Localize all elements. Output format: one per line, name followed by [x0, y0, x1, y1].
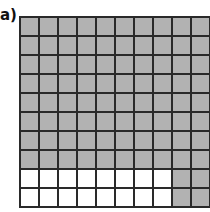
- shaded-cell: [116, 56, 133, 73]
- shaded-cell: [173, 56, 190, 73]
- shaded-cell: [78, 75, 95, 92]
- shaded-cell: [154, 75, 171, 92]
- shaded-cell: [192, 18, 209, 35]
- shaded-cell: [192, 113, 209, 130]
- shaded-cell: [154, 56, 171, 73]
- unshaded-cell: [59, 189, 76, 206]
- shaded-cell: [154, 18, 171, 35]
- unshaded-cell: [21, 189, 38, 206]
- shaded-cell: [192, 37, 209, 54]
- shaded-cell: [40, 37, 57, 54]
- shaded-cell: [78, 94, 95, 111]
- shaded-cell: [173, 132, 190, 149]
- shaded-cell: [21, 18, 38, 35]
- shaded-cell: [97, 151, 114, 168]
- shaded-cell: [97, 56, 114, 73]
- unshaded-cell: [59, 170, 76, 187]
- shaded-cell: [173, 170, 190, 187]
- shaded-cell: [154, 37, 171, 54]
- shaded-cell: [192, 170, 209, 187]
- shaded-cell: [135, 56, 152, 73]
- unshaded-cell: [78, 189, 95, 206]
- shaded-cell: [40, 18, 57, 35]
- shaded-cell: [192, 151, 209, 168]
- shaded-cell: [21, 56, 38, 73]
- shaded-cell: [173, 151, 190, 168]
- shaded-cell: [59, 56, 76, 73]
- unshaded-cell: [97, 189, 114, 206]
- shaded-cell: [173, 94, 190, 111]
- shaded-cell: [116, 75, 133, 92]
- shaded-cell: [135, 94, 152, 111]
- shaded-cell: [173, 75, 190, 92]
- shaded-cell: [40, 151, 57, 168]
- shaded-cell: [135, 132, 152, 149]
- shaded-cell: [21, 94, 38, 111]
- shaded-cell: [59, 18, 76, 35]
- shaded-cell: [116, 37, 133, 54]
- shaded-cell: [78, 37, 95, 54]
- shaded-cell: [59, 132, 76, 149]
- shaded-cell: [78, 18, 95, 35]
- unshaded-cell: [97, 170, 114, 187]
- shaded-cell: [173, 113, 190, 130]
- shaded-cell: [192, 189, 209, 206]
- shaded-cell: [192, 94, 209, 111]
- shaded-cell: [173, 18, 190, 35]
- shaded-cell: [116, 113, 133, 130]
- unshaded-cell: [78, 170, 95, 187]
- unshaded-cell: [154, 189, 171, 206]
- shaded-cell: [192, 75, 209, 92]
- shaded-cell: [135, 151, 152, 168]
- unshaded-cell: [40, 189, 57, 206]
- shaded-cell: [154, 94, 171, 111]
- hundred-grid: [19, 16, 210, 208]
- shaded-cell: [21, 75, 38, 92]
- shaded-cell: [78, 113, 95, 130]
- shaded-cell: [116, 94, 133, 111]
- shaded-cell: [173, 37, 190, 54]
- shaded-cell: [59, 37, 76, 54]
- shaded-cell: [154, 113, 171, 130]
- shaded-cell: [135, 113, 152, 130]
- shaded-cell: [97, 113, 114, 130]
- unshaded-cell: [116, 189, 133, 206]
- shaded-cell: [154, 132, 171, 149]
- shaded-cell: [21, 132, 38, 149]
- shaded-cell: [21, 151, 38, 168]
- unshaded-cell: [135, 170, 152, 187]
- shaded-cell: [40, 56, 57, 73]
- shaded-cell: [116, 151, 133, 168]
- shaded-cell: [135, 18, 152, 35]
- shaded-cell: [59, 113, 76, 130]
- shaded-cell: [97, 75, 114, 92]
- shaded-cell: [40, 113, 57, 130]
- shaded-cell: [59, 94, 76, 111]
- shaded-cell: [59, 75, 76, 92]
- shaded-cell: [116, 18, 133, 35]
- shaded-cell: [135, 37, 152, 54]
- unshaded-cell: [116, 170, 133, 187]
- shaded-cell: [116, 132, 133, 149]
- shaded-cell: [173, 189, 190, 206]
- shaded-cell: [97, 18, 114, 35]
- shaded-cell: [192, 56, 209, 73]
- shaded-cell: [78, 151, 95, 168]
- shaded-cell: [97, 37, 114, 54]
- shaded-cell: [21, 113, 38, 130]
- shaded-cell: [97, 94, 114, 111]
- part-label: a): [0, 6, 17, 24]
- shaded-cell: [40, 132, 57, 149]
- shaded-cell: [97, 132, 114, 149]
- shaded-cell: [40, 94, 57, 111]
- shaded-cell: [78, 56, 95, 73]
- shaded-cell: [40, 75, 57, 92]
- unshaded-cell: [21, 170, 38, 187]
- shaded-cell: [78, 132, 95, 149]
- unshaded-cell: [40, 170, 57, 187]
- shaded-cell: [192, 132, 209, 149]
- shaded-cell: [154, 151, 171, 168]
- unshaded-cell: [154, 170, 171, 187]
- shaded-cell: [135, 75, 152, 92]
- shaded-cell: [21, 37, 38, 54]
